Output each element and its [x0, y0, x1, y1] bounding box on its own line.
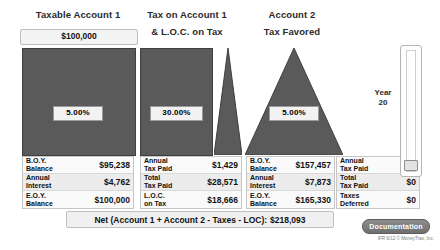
row-value: $157,457 [296, 160, 331, 170]
row-label: Annual Interest [26, 174, 51, 189]
row-value: $100,000 [95, 195, 130, 205]
year-slider-label: Year 20 [368, 88, 398, 108]
tax-loc-table: Annual Tax Paid $1,429 Total Tax Paid $2… [140, 156, 242, 209]
account-2-growth-triangle [245, 48, 343, 155]
table-row: E.O.Y. Balance $165,330 [247, 191, 334, 208]
row-value: $0 [407, 177, 416, 187]
row-value: $7,873 [305, 177, 331, 187]
row-value: $165,330 [296, 195, 331, 205]
account-1-rate-badge: 5.00% [53, 106, 103, 121]
year-slider-thumb[interactable] [404, 160, 418, 171]
table-row: Taxes Deferred $0 [337, 191, 419, 208]
loc-on-tax-triangle [214, 48, 242, 155]
tax-rate-badge: 30.00% [150, 106, 203, 121]
column-title-tax-line1: Tax on Account 1 [135, 9, 239, 20]
row-value: $18,666 [207, 195, 238, 205]
row-value: $4,762 [104, 177, 130, 187]
net-amount: $218,093 [270, 215, 305, 225]
row-label: Total Tax Paid [144, 174, 172, 189]
row-label: L.O.C. on Tax [144, 192, 166, 207]
net-summary-bar: Net (Account 1 + Account 2 - Taxes - LOC… [66, 211, 334, 228]
row-label: E.O.Y. Balance [26, 192, 53, 207]
row-value: $28,571 [207, 177, 238, 187]
account-1-balance-block [22, 48, 136, 156]
row-value: $0 [407, 195, 416, 205]
column-title-account-2-line2: Tax Favored [240, 26, 344, 37]
row-label: Annual Tax Paid [144, 157, 172, 172]
row-label: Taxes Deferred [340, 192, 369, 207]
documentation-button[interactable]: Documentation [362, 219, 430, 234]
table-row: Annual Interest $4,762 [23, 174, 133, 191]
tax-paid-block [140, 48, 213, 156]
account-1-table: B.O.Y. Balance $95,238 Annual Interest $… [22, 156, 134, 209]
net-label: Net (Account 1 + Account 2 - Taxes - LOC… [94, 215, 267, 225]
table-row: E.O.Y. Balance $100,000 [23, 191, 133, 208]
row-label: B.O.Y. Balance [26, 157, 53, 172]
table-row: B.O.Y. Balance $157,457 [247, 157, 334, 174]
row-label: E.O.Y. Balance [250, 192, 277, 207]
table-row: B.O.Y. Balance $95,238 [23, 157, 133, 174]
row-label: Annual Interest [250, 174, 275, 189]
column-title-tax-line2: & L.O.C. on Tax [135, 26, 239, 37]
row-value: $95,238 [99, 160, 130, 170]
account-1-principal-chip: $100,000 [20, 29, 138, 45]
table-row: Total Tax Paid $28,571 [141, 174, 241, 191]
row-label: Annual Tax Paid [340, 157, 368, 172]
year-slider-groove [406, 50, 416, 172]
row-label: B.O.Y. Balance [250, 157, 277, 172]
account-2-rate-badge: 5.00% [269, 106, 319, 121]
table-row: L.O.C. on Tax $18,666 [141, 191, 241, 208]
year-slider[interactable] [400, 45, 422, 177]
row-label: Total Tax Paid [340, 174, 368, 189]
copyright-note: IFR 9/12 © MoneyTrax, Inc. [330, 236, 434, 241]
column-title-account-1: Taxable Account 1 [18, 9, 138, 20]
table-row: Annual Interest $7,873 [247, 174, 334, 191]
row-value: $1,429 [212, 160, 238, 170]
table-row: Annual Tax Paid $1,429 [141, 157, 241, 174]
account-2-table: B.O.Y. Balance $157,457 Annual Interest … [246, 156, 335, 209]
column-title-account-2-line1: Account 2 [240, 9, 344, 20]
